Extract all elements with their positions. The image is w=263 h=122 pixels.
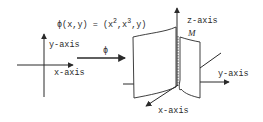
map-arrow: ϕ <box>77 46 125 58</box>
space-x-axis-label: x-axis <box>158 106 189 116</box>
diagram-canvas: ϕ(x,y) = (x2,x3,y) y-axis x-axis ϕ z-axi… <box>0 0 263 122</box>
surface-label-M: M <box>187 28 196 38</box>
surface-left-sheet <box>133 27 176 98</box>
phi-label: ϕ <box>103 46 108 56</box>
space-y-axis-label: y-axis <box>218 69 249 79</box>
plane-2d: y-axis x-axis <box>17 34 85 97</box>
back-axis-line <box>200 53 221 68</box>
surface-right-sheet <box>179 37 200 98</box>
plane-x-axis-label: x-axis <box>54 68 85 78</box>
z-axis-label: z-axis <box>187 16 218 26</box>
formula: ϕ(x,y) = (x2,x3,y) <box>57 18 146 30</box>
plane-y-axis-label: y-axis <box>49 40 80 50</box>
